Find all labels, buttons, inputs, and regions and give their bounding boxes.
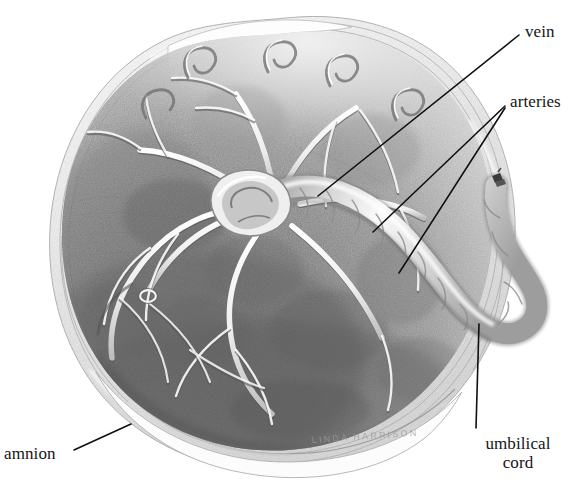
label-umbilical-line1: umbilical [462,434,574,453]
placenta-illustration: LINDA HARRISON [0,0,575,485]
placenta-figure: LINDA HARRISON vein arteries umbilical c… [0,0,575,485]
cord-insertion [211,170,291,236]
label-arteries: arteries [510,92,561,111]
label-vein: vein [525,22,555,41]
amnion-leader-line [74,424,131,450]
label-umbilical-line2: cord [462,453,574,472]
label-amnion: amnion [4,444,56,463]
label-umbilical-cord: umbilical cord [462,434,574,472]
